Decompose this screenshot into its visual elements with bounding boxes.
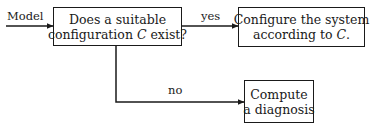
diagnose-node: Compute a diagnosis (244, 80, 314, 123)
decision-line-2-pre: configuration (48, 27, 137, 42)
configure-line-2-post: . (346, 27, 350, 42)
diagnose-line-1: Compute (250, 87, 307, 102)
configure-line-1: Configure the system (234, 12, 370, 27)
variable-c: C (137, 27, 147, 42)
input-label-model: Model (7, 10, 44, 22)
configure-line-2-pre: according to (253, 27, 337, 42)
decision-line-2: configuration C exist? (48, 27, 187, 42)
variable-c: C (336, 27, 346, 42)
diagnose-line-2: a diagnosis (243, 102, 314, 117)
flowchart: Model Does a suitable configuration C ex… (0, 0, 377, 128)
decision-node: Does a suitable configuration C exist? (53, 7, 182, 46)
configure-line-2: according to C. (253, 27, 350, 42)
edge-label-no: no (168, 84, 182, 96)
edge-label-yes: yes (201, 10, 220, 22)
configure-node: Configure the system according to C. (238, 7, 365, 47)
decision-line-1: Does a suitable (69, 12, 166, 27)
decision-line-2-post: exist? (147, 27, 188, 42)
